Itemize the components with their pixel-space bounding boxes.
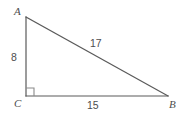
vertex-label-a: A bbox=[14, 6, 21, 17]
side-length-label-ab: 17 bbox=[90, 38, 102, 49]
vertex-label-b: B bbox=[169, 99, 176, 110]
geometry-figure: A B C 8 15 17 bbox=[0, 0, 184, 116]
side-length-label-ac: 8 bbox=[11, 52, 17, 63]
right-angle-marker-icon bbox=[26, 88, 34, 96]
vertex-label-c: C bbox=[14, 98, 21, 109]
triangle-hypotenuse-ab bbox=[26, 17, 168, 96]
side-length-label-cb: 15 bbox=[87, 100, 99, 111]
